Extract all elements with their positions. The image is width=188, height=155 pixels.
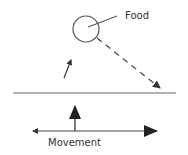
food-circle <box>73 16 99 42</box>
diagram-canvas: Food Movement <box>0 0 188 155</box>
movement-label: Movement <box>48 138 101 148</box>
dashed-trajectory-arrow <box>97 38 160 88</box>
diagram-svg <box>0 0 188 155</box>
food-label: Food <box>125 11 149 21</box>
small-diagonal-arrow <box>64 60 71 78</box>
